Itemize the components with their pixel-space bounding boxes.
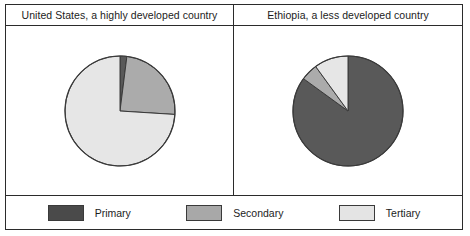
- legend-item-tertiary: Tertiary: [339, 205, 420, 221]
- pie-chart-figure: United States, a highly developed countr…: [5, 4, 463, 230]
- legend-swatch-primary: [48, 205, 84, 221]
- pie-slice-secondary: [120, 56, 175, 114]
- chart-panels: United States, a highly developed countr…: [6, 5, 462, 195]
- chart-panel-ethiopia: Ethiopia, a less developed country: [234, 5, 462, 195]
- legend-label-tertiary: Tertiary: [386, 207, 420, 219]
- legend-swatch-secondary: [186, 205, 222, 221]
- legend-item-primary: Primary: [48, 205, 131, 221]
- legend-item-secondary: Secondary: [186, 205, 283, 221]
- legend-label-primary: Primary: [95, 207, 131, 219]
- legend-swatch-tertiary: [339, 205, 375, 221]
- panel-title-united-states: United States, a highly developed countr…: [6, 5, 233, 26]
- pie-chart-ethiopia: [286, 49, 410, 173]
- panel-title-ethiopia: Ethiopia, a less developed country: [234, 5, 462, 26]
- pie-container-united-states: [6, 26, 233, 195]
- pie-chart-united-states: [58, 49, 182, 173]
- pie-container-ethiopia: [234, 26, 462, 195]
- chart-panel-united-states: United States, a highly developed countr…: [6, 5, 234, 195]
- legend-label-secondary: Secondary: [233, 207, 283, 219]
- chart-legend: Primary Secondary Tertiary: [6, 195, 462, 229]
